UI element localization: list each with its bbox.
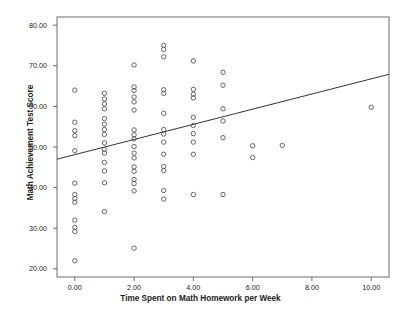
data-point bbox=[102, 97, 106, 101]
data-point bbox=[102, 122, 106, 126]
data-point bbox=[191, 115, 195, 119]
data-point bbox=[369, 105, 373, 109]
data-point bbox=[102, 209, 106, 213]
data-point bbox=[162, 111, 166, 115]
data-point bbox=[132, 95, 136, 99]
y-tick-label: 70.00 bbox=[11, 61, 47, 70]
data-point bbox=[73, 129, 77, 133]
x-axis-tick-marks bbox=[75, 277, 371, 281]
data-point bbox=[102, 160, 106, 164]
data-point bbox=[162, 188, 166, 192]
data-point bbox=[102, 132, 106, 136]
data-point bbox=[162, 55, 166, 59]
x-tick-label: 8.00 bbox=[292, 283, 332, 292]
data-point bbox=[102, 91, 106, 95]
y-axis-tick-marks bbox=[53, 25, 57, 269]
data-point bbox=[132, 246, 136, 250]
x-tick-label: 6.00 bbox=[233, 283, 273, 292]
data-point bbox=[102, 169, 106, 173]
data-point bbox=[221, 107, 225, 111]
data-point bbox=[132, 108, 136, 112]
data-point bbox=[221, 119, 225, 123]
data-point bbox=[191, 59, 195, 63]
data-point bbox=[162, 152, 166, 156]
scatter-plot-figure: Math Achievement Test Score Time Spent o… bbox=[0, 0, 401, 312]
data-point bbox=[73, 133, 77, 137]
plot-canvas bbox=[0, 0, 401, 312]
data-point bbox=[162, 127, 166, 131]
data-point bbox=[102, 127, 106, 131]
y-tick-label: 40.00 bbox=[11, 183, 47, 192]
data-point bbox=[221, 135, 225, 139]
data-point bbox=[73, 259, 77, 263]
data-point bbox=[132, 156, 136, 160]
data-point bbox=[132, 100, 136, 104]
y-tick-label: 30.00 bbox=[11, 224, 47, 233]
data-point bbox=[73, 218, 77, 222]
data-point bbox=[132, 189, 136, 193]
data-point bbox=[162, 132, 166, 136]
data-point bbox=[102, 107, 106, 111]
data-point bbox=[250, 144, 254, 148]
data-point bbox=[73, 120, 77, 124]
y-tick-label: 20.00 bbox=[11, 264, 47, 273]
data-point bbox=[132, 151, 136, 155]
data-point bbox=[191, 152, 195, 156]
data-point bbox=[162, 140, 166, 144]
data-point bbox=[250, 155, 254, 159]
data-point bbox=[221, 83, 225, 87]
y-tick-label: 60.00 bbox=[11, 102, 47, 111]
x-tick-label: 10.00 bbox=[351, 283, 391, 292]
x-tick-label: 4.00 bbox=[173, 283, 213, 292]
y-tick-label: 80.00 bbox=[11, 21, 47, 30]
data-point bbox=[102, 181, 106, 185]
data-point bbox=[73, 181, 77, 185]
plot-frame bbox=[57, 17, 389, 277]
data-point bbox=[132, 165, 136, 169]
data-point bbox=[162, 197, 166, 201]
y-tick-label: 50.00 bbox=[11, 143, 47, 152]
data-point bbox=[73, 88, 77, 92]
data-point bbox=[280, 143, 284, 147]
data-point bbox=[132, 144, 136, 148]
x-tick-label: 0.00 bbox=[55, 283, 95, 292]
data-point bbox=[102, 116, 106, 120]
data-point bbox=[132, 63, 136, 67]
data-point bbox=[191, 140, 195, 144]
data-point bbox=[102, 141, 106, 145]
data-point bbox=[132, 169, 136, 173]
data-point bbox=[191, 192, 195, 196]
data-point-series bbox=[73, 43, 374, 263]
data-point bbox=[191, 131, 195, 135]
data-point bbox=[191, 87, 195, 91]
x-tick-label: 2.00 bbox=[114, 283, 154, 292]
data-point bbox=[132, 128, 136, 132]
data-point bbox=[73, 148, 77, 152]
data-point bbox=[221, 70, 225, 74]
data-point bbox=[221, 192, 225, 196]
data-point bbox=[102, 102, 106, 106]
